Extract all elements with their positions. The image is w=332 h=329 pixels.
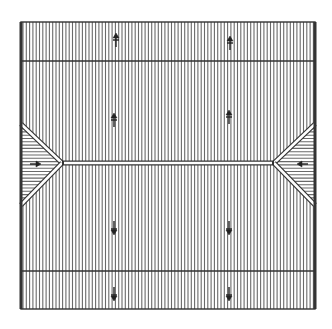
- slope-arrow-up-icon: [113, 33, 119, 47]
- roof-plan-svg: [0, 0, 332, 329]
